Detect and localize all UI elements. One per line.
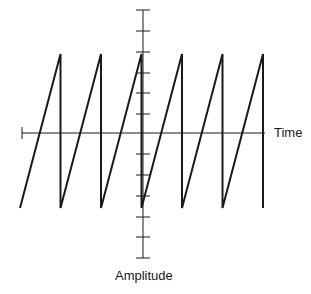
- x-axis-label: Time: [274, 125, 302, 140]
- sawtooth-wave: [20, 54, 263, 208]
- y-axis-label: Amplitude: [115, 268, 173, 283]
- sawtooth-diagram: [0, 0, 311, 294]
